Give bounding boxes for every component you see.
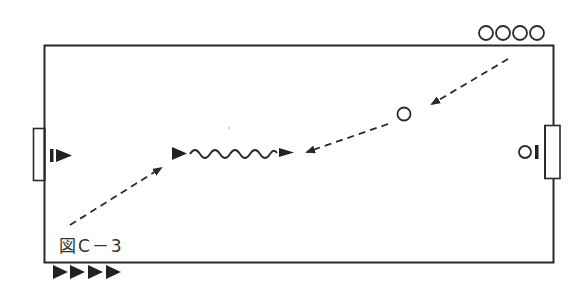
figure-caption: 図C－3 [59, 232, 124, 257]
left-goalkeeper [50, 149, 72, 162]
passer-circle-player [398, 108, 411, 121]
dribble-wavy-line [190, 150, 277, 158]
left-goal [34, 129, 45, 181]
dribbler-triangle-player [172, 147, 187, 160]
right-goalkeeper [519, 145, 539, 159]
pass-arrow-2 [307, 124, 388, 152]
dribble-arrowhead [279, 148, 294, 157]
run-arrow [70, 168, 161, 225]
right-goal [545, 126, 560, 179]
pass-arrow-1 [432, 59, 508, 104]
waiting-triangle-players [53, 265, 121, 279]
waiting-circle-players [479, 26, 544, 40]
